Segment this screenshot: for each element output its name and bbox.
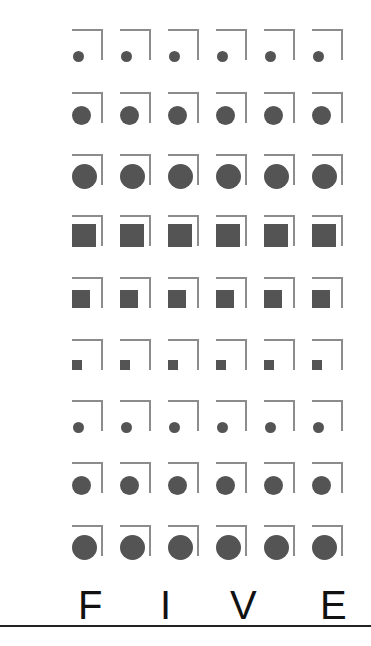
grid-cell (120, 29, 152, 62)
large-circle-icon (168, 164, 193, 189)
small-circle-icon (73, 422, 84, 433)
small-square-icon (312, 360, 322, 370)
large-circle-icon (312, 164, 337, 189)
caption-letter-i: I (160, 585, 171, 625)
grid-cell (120, 92, 152, 125)
grid-cell (264, 92, 296, 125)
grid-cell (264, 339, 296, 372)
grid-cell (312, 277, 344, 310)
grid-cell (72, 525, 104, 558)
small-square-icon (216, 360, 226, 370)
grid-cell (264, 462, 296, 495)
medium-circle-icon (312, 106, 331, 125)
grid-cell (216, 277, 248, 310)
grid-cell (120, 400, 152, 433)
medium-circle-icon (264, 106, 283, 125)
grid-cell (312, 339, 344, 372)
grid-cell (264, 215, 296, 248)
medium-square-icon (312, 290, 330, 308)
grid-cell (72, 215, 104, 248)
small-circle-icon (265, 422, 276, 433)
grid-cell (168, 277, 200, 310)
small-circle-icon (217, 51, 228, 62)
grid-cell (216, 400, 248, 433)
grid-cell (216, 462, 248, 495)
medium-square-icon (168, 290, 186, 308)
grid-cell (312, 29, 344, 62)
grid-cell (312, 92, 344, 125)
large-circle-icon (216, 164, 241, 189)
baseline-rule (0, 625, 371, 627)
grid-cell (72, 462, 104, 495)
grid-cell (72, 400, 104, 433)
grid-cell (72, 29, 104, 62)
large-circle-icon (264, 164, 289, 189)
small-square-icon (72, 360, 82, 370)
grid-cell (264, 277, 296, 310)
grid-cell (312, 525, 344, 558)
grid-cell (216, 154, 248, 187)
grid-cell (120, 339, 152, 372)
grid-cell (264, 154, 296, 187)
medium-square-icon (264, 290, 282, 308)
small-circle-icon (265, 51, 276, 62)
grid-cell (72, 92, 104, 125)
grid-cell (216, 29, 248, 62)
caption-letter-e: E (320, 585, 347, 625)
large-circle-icon (216, 535, 241, 560)
medium-circle-icon (168, 106, 187, 125)
large-square-icon (216, 224, 240, 247)
caption-letter-v: V (230, 585, 257, 625)
small-circle-icon (73, 51, 84, 62)
grid-cell (168, 462, 200, 495)
shape-grid (0, 0, 371, 580)
grid-cell (120, 215, 152, 248)
grid-cell (216, 215, 248, 248)
medium-square-icon (72, 290, 90, 308)
large-circle-icon (120, 535, 145, 560)
grid-cell (168, 339, 200, 372)
medium-circle-icon (120, 106, 139, 125)
medium-circle-icon (72, 106, 91, 125)
medium-square-icon (120, 290, 138, 308)
medium-circle-icon (216, 106, 235, 125)
large-circle-icon (264, 535, 289, 560)
small-circle-icon (217, 422, 228, 433)
grid-cell (120, 277, 152, 310)
medium-circle-icon (168, 476, 187, 495)
grid-cell (216, 339, 248, 372)
grid-cell (168, 215, 200, 248)
caption-letter-f: F (78, 585, 102, 625)
caption-five: F I V E (0, 585, 371, 625)
large-circle-icon (120, 164, 145, 189)
grid-cell (168, 400, 200, 433)
small-circle-icon (169, 51, 180, 62)
grid-cell (72, 277, 104, 310)
large-square-icon (168, 224, 192, 247)
large-circle-icon (72, 535, 97, 560)
small-circle-icon (313, 51, 324, 62)
grid-cell (120, 462, 152, 495)
grid-cell (120, 154, 152, 187)
large-circle-icon (312, 535, 337, 560)
grid-cell (120, 525, 152, 558)
grid-cell (72, 154, 104, 187)
large-circle-icon (72, 164, 97, 189)
grid-cell (72, 339, 104, 372)
large-square-icon (264, 224, 288, 247)
grid-cell (312, 154, 344, 187)
small-circle-icon (121, 422, 132, 433)
large-square-icon (72, 224, 96, 247)
grid-cell (312, 215, 344, 248)
medium-circle-icon (120, 476, 139, 495)
grid-cell (264, 29, 296, 62)
grid-cell (168, 525, 200, 558)
small-circle-icon (169, 422, 180, 433)
large-square-icon (120, 224, 144, 247)
small-square-icon (120, 360, 130, 370)
grid-cell (312, 462, 344, 495)
medium-circle-icon (216, 476, 235, 495)
grid-cell (168, 29, 200, 62)
medium-circle-icon (264, 476, 283, 495)
grid-cell (312, 400, 344, 433)
